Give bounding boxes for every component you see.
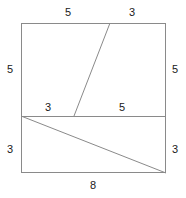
- geometry-drawing: [0, 0, 186, 198]
- geometry-figure: 5 3 5 5 3 5 3 3 8: [0, 0, 186, 198]
- mid-right-length: 5: [112, 102, 132, 113]
- top-right-length: 3: [122, 7, 142, 18]
- right-lower-length: 3: [165, 144, 185, 155]
- top-left-length: 5: [58, 7, 78, 18]
- left-lower-length: 3: [0, 144, 20, 155]
- left-upper-length: 5: [0, 64, 20, 75]
- bottom-length: 8: [83, 180, 103, 191]
- mid-left-length: 3: [38, 102, 58, 113]
- lower-diagonal-segment: [21, 116, 166, 173]
- right-upper-length: 5: [165, 64, 185, 75]
- upper-slant-segment: [74, 23, 110, 116]
